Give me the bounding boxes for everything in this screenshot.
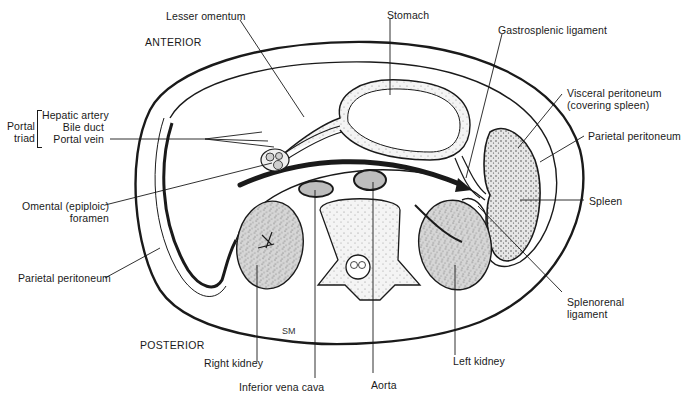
portal-vein-label: Portal vein xyxy=(42,133,104,145)
bile-duct-label: Bile duct xyxy=(42,121,104,133)
visceral-peritoneum-label: Visceral peritoneum (covering spleen) xyxy=(567,87,662,111)
hepatic-artery-label: Hepatic artery xyxy=(42,109,104,121)
gastrosplenic-ligament xyxy=(455,156,486,198)
omental-foramen-line1: Omental (epiploic) xyxy=(22,200,109,212)
stomach-label: Stomach xyxy=(387,9,429,21)
inferior-vena-cava xyxy=(299,181,333,197)
parietal-peritoneum-right-label: Parietal peritoneum xyxy=(588,130,681,142)
posterior-label: POSTERIOR xyxy=(140,339,205,351)
omental-foramen-line2: foramen xyxy=(22,212,109,224)
vertebra xyxy=(318,199,420,300)
stomach xyxy=(282,80,470,160)
portal-triad-line1: Portal xyxy=(7,120,35,132)
aorta xyxy=(354,170,386,190)
gastrosplenic-ligament-label: Gastrosplenic ligament xyxy=(498,24,607,36)
right-kidney-label: Right kidney xyxy=(204,357,263,369)
portal-triad xyxy=(261,149,289,171)
left-kidney-label: Left kidney xyxy=(453,355,505,367)
visceral-peritoneum-line1: Visceral peritoneum xyxy=(567,87,662,99)
artist-signature: SM xyxy=(282,326,296,336)
arrow-head-icon xyxy=(455,178,472,192)
portal-triad-components: Hepatic artery Bile duct Portal vein xyxy=(42,109,104,145)
splenorenal-ligament-label: Splenorenal ligament xyxy=(567,296,624,320)
ivc-label: Inferior vena cava xyxy=(239,381,324,393)
aorta-label: Aorta xyxy=(371,379,397,391)
portal-triad-group-label: Portal triad xyxy=(7,120,35,144)
splenorenal-line2: ligament xyxy=(567,308,624,320)
lesser-omentum-label: Lesser omentum xyxy=(166,10,246,22)
spinal-cord xyxy=(346,255,370,279)
visceral-peritoneum-line2: (covering spleen) xyxy=(567,99,662,111)
omental-foramen-label: Omental (epiploic) foramen xyxy=(22,200,109,224)
portal-triad-line2: triad xyxy=(7,132,35,144)
splenorenal-line1: Splenorenal xyxy=(567,296,624,308)
right-kidney xyxy=(231,197,309,293)
parietal-peritoneum-left-label: Parietal peritoneum xyxy=(18,272,111,284)
spleen-label: Spleen xyxy=(589,195,622,207)
anterior-label: ANTERIOR xyxy=(145,36,202,48)
